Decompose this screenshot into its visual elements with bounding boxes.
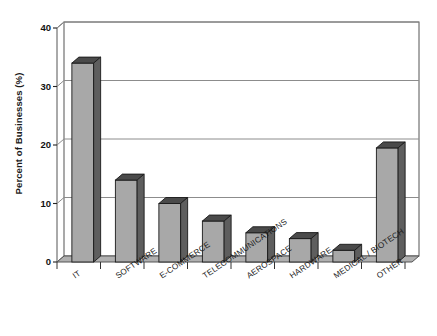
y-axis-tick-label: 20 [27,140,51,150]
y-axis-title: Percent of Businesses (%) [13,54,24,214]
bar [72,57,101,262]
gridline-connector [57,139,64,145]
bar [115,174,144,262]
gridline-connector [57,22,64,28]
bar-chart: Percent of Businesses (%) 010203040 ITSO… [0,0,437,336]
y-axis-tick-label: 30 [27,82,51,92]
y-axis-tick-label: 40 [27,23,51,33]
bar [159,198,188,263]
y-axis-tick-label: 10 [27,199,51,209]
gridline-connector [57,81,64,87]
plot-area [0,0,437,336]
gridline-connector [57,198,64,204]
y-axis-tick-label: 0 [27,257,51,267]
